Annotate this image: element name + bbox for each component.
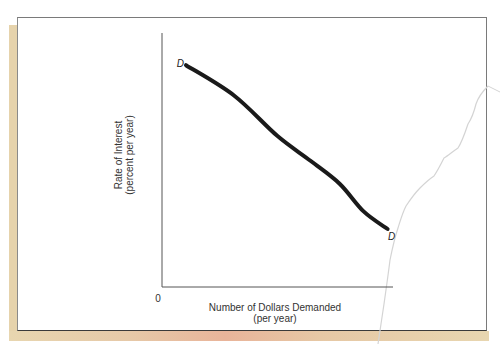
x-axis-sublabel: (per year): [253, 313, 296, 324]
x-axis-label: Number of Dollars Demanded: [209, 302, 341, 313]
curve-end-label: D: [388, 231, 395, 242]
demand-chart: D D 0 Number of Dollars Demanded (per ye…: [0, 0, 500, 352]
y-axis-label: Rate of Interest: [113, 121, 124, 190]
demand-curve-line: [186, 65, 388, 229]
y-axis-sublabel: (percent per year): [124, 115, 135, 194]
curve-start-label: D: [177, 58, 184, 69]
origin-label: 0: [155, 293, 161, 304]
